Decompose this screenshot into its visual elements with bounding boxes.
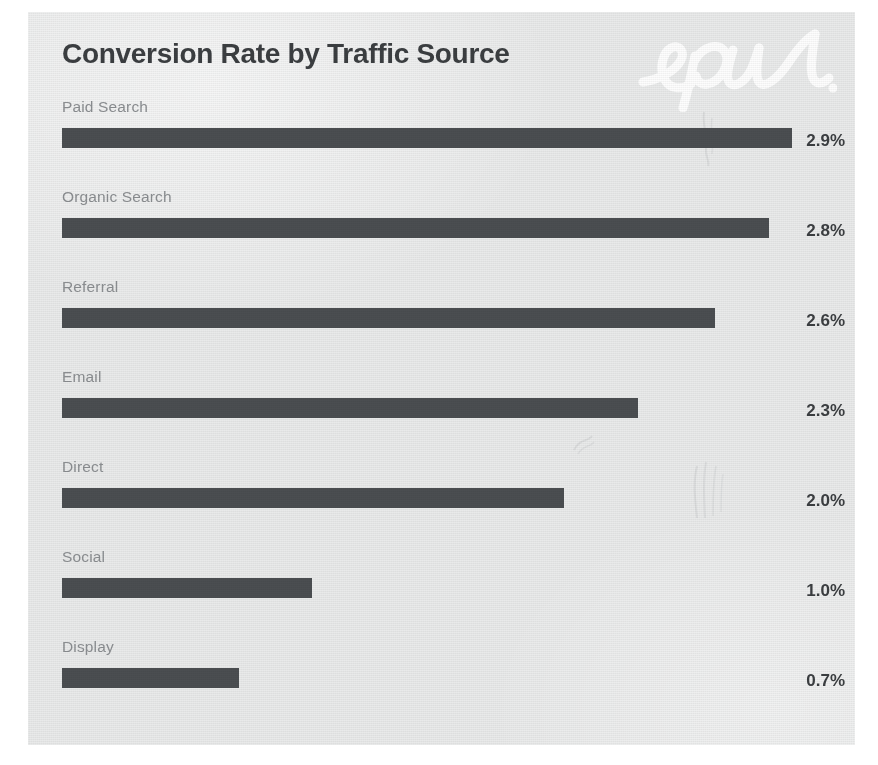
bar-fill — [62, 488, 564, 508]
bar-category-label: Direct — [62, 458, 103, 476]
bar-row: Direct 2.0% — [28, 458, 855, 548]
bar-value-label: 2.0% — [755, 491, 845, 511]
bar-category-label: Referral — [62, 278, 118, 296]
scanned-page: Conversion Rate by Traffic Source — [0, 0, 878, 765]
bar-value-label: 2.3% — [755, 401, 845, 421]
bar-row: Display 0.7% — [28, 638, 855, 728]
watermark-dot-icon — [829, 84, 838, 93]
page-title: Conversion Rate by Traffic Source — [62, 38, 510, 70]
bar-row: Paid Search 2.9% — [28, 98, 855, 188]
bar-fill — [62, 308, 715, 328]
bar-fill — [62, 128, 792, 148]
bar-category-label: Social — [62, 548, 105, 566]
bar-row: Organic Search 2.8% — [28, 188, 855, 278]
bar-fill — [62, 218, 769, 238]
bar-category-label: Organic Search — [62, 188, 172, 206]
bar-value-label: 2.9% — [755, 131, 845, 151]
bar-fill — [62, 668, 239, 688]
bar-value-label: 2.6% — [755, 311, 845, 331]
bar-fill — [62, 578, 312, 598]
bar-value-label: 0.7% — [755, 671, 845, 691]
bar-fill — [62, 398, 638, 418]
bar-category-label: Email — [62, 368, 102, 386]
chart-card: Conversion Rate by Traffic Source — [28, 12, 855, 745]
bar-track — [62, 308, 792, 328]
bar-value-label: 1.0% — [755, 581, 845, 601]
bar-category-label: Display — [62, 638, 114, 656]
bar-row: Email 2.3% — [28, 368, 855, 458]
bar-track — [62, 668, 792, 688]
bar-track — [62, 398, 792, 418]
bar-track — [62, 488, 792, 508]
bar-row: Social 1.0% — [28, 548, 855, 638]
bar-category-label: Paid Search — [62, 98, 148, 116]
bar-track — [62, 578, 792, 598]
bar-value-label: 2.8% — [755, 221, 845, 241]
bar-row: Referral 2.6% — [28, 278, 855, 368]
bar-track — [62, 128, 792, 148]
bar-chart-plot-area: Paid Search 2.9% Organic Search 2.8% Ref… — [28, 98, 855, 738]
bar-track — [62, 218, 792, 238]
